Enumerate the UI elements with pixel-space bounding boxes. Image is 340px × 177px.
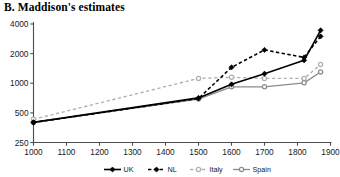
x-axis: 1000110012001300140015001600170018001900 xyxy=(24,143,340,158)
x-axis-tick-label: 1600 xyxy=(222,147,241,157)
legend-marker-italy xyxy=(196,167,200,171)
x-axis-tick-label: 1000 xyxy=(24,147,43,157)
x-axis-tick-label: 1500 xyxy=(189,147,208,157)
series-point-italy xyxy=(319,62,323,66)
legend-label-uk: UK xyxy=(124,165,134,174)
series-point-spain xyxy=(262,85,266,89)
x-axis-tick-label: 1200 xyxy=(90,147,109,157)
legend-label-nl: NL xyxy=(168,165,177,174)
x-axis-tick-label: 1300 xyxy=(123,147,142,157)
y-axis-tick-label: 500 xyxy=(15,108,29,118)
series-point-spain xyxy=(302,81,306,85)
series-point-italy xyxy=(302,76,306,80)
y-axis: 250500100020004000 xyxy=(10,19,33,148)
x-axis-tick-label: 1800 xyxy=(288,147,307,157)
x-axis-tick-label: 1700 xyxy=(255,147,274,157)
chart-container: B. Maddison's estimates 2505001000200040… xyxy=(0,0,340,177)
series-point-uk xyxy=(262,71,267,76)
y-axis-tick-label: 250 xyxy=(15,138,29,148)
series-point-italy xyxy=(229,75,233,79)
series-line-spain xyxy=(34,72,321,122)
series-line-uk xyxy=(34,30,321,122)
y-axis-tick-label: 2000 xyxy=(10,49,29,59)
series-point-spain xyxy=(319,70,323,74)
legend-marker-uk xyxy=(110,167,115,172)
x-axis-tick-label: 1400 xyxy=(156,147,175,157)
series-line-italy xyxy=(34,65,321,120)
data-series-group xyxy=(31,28,323,125)
series-line-nl xyxy=(34,36,321,122)
legend-marker-spain xyxy=(239,167,243,171)
y-axis-tick-label: 4000 xyxy=(10,19,29,29)
line-chart: 250500100020004000 100011001200130014001… xyxy=(0,0,340,177)
chart-legend: UKNLItalySpain xyxy=(104,165,271,174)
series-point-italy xyxy=(196,76,200,80)
x-axis-tick-label: 1900 xyxy=(321,147,340,157)
legend-label-italy: Italy xyxy=(210,165,224,174)
legend-marker-nl xyxy=(154,167,159,172)
y-axis-tick-label: 1000 xyxy=(10,78,29,88)
legend-label-spain: Spain xyxy=(253,165,271,174)
series-point-italy xyxy=(262,76,266,80)
x-axis-tick-label: 1100 xyxy=(58,147,76,157)
